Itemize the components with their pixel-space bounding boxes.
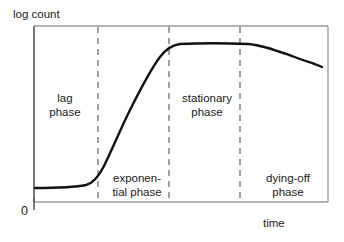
origin-label: 0 bbox=[21, 205, 28, 218]
growth-curve-figure: log count time 0 lag phase exponen- tial… bbox=[0, 0, 344, 242]
plot-canvas bbox=[0, 0, 344, 242]
phase-label-lag: lag phase bbox=[36, 92, 94, 119]
x-axis-label: time bbox=[263, 217, 285, 230]
phase-label-dying-off: dying-off phase bbox=[250, 172, 326, 199]
y-axis-label: log count bbox=[13, 8, 60, 21]
phase-label-exponential: exponen- tial phase bbox=[104, 172, 170, 199]
phase-label-stationary: stationary phase bbox=[173, 92, 241, 119]
